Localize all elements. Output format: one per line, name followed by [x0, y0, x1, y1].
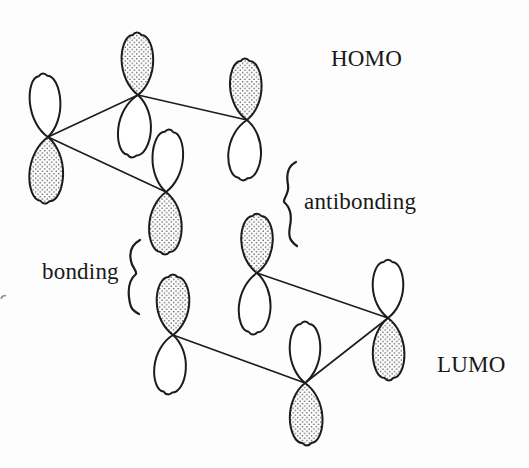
shaded-lobe-icon: [157, 275, 190, 335]
framework-line: [257, 273, 388, 318]
scan-artifact-mark: [1, 296, 6, 299]
p-orbital-lumo-c4: [373, 260, 405, 381]
framework-line: [173, 335, 305, 383]
p-orbital-lumo-c2: [154, 275, 189, 395]
p-orbital-lumo-c3: [290, 322, 323, 446]
antibonding-label: antibonding: [304, 190, 416, 213]
white-lobe-icon: [118, 95, 151, 157]
shaded-lobe-icon: [29, 137, 63, 204]
antibonding-brace: [284, 162, 297, 246]
p-orbital-homo-c3: [149, 130, 183, 255]
shaded-lobe-icon: [230, 59, 262, 120]
p-orbital-homo-c1: [29, 73, 63, 203]
white-lobe-icon: [228, 120, 261, 180]
shaded-lobe-icon: [149, 192, 182, 254]
orbital-diagram: [0, 0, 529, 468]
white-lobe-icon: [154, 335, 186, 394]
white-lobe-icon: [152, 130, 183, 192]
shaded-lobe-icon: [241, 214, 273, 273]
bonding-label: bonding: [42, 260, 119, 283]
framework-line: [138, 95, 247, 120]
p-orbital-lumo-c1: [239, 214, 273, 335]
lumo-label: LUMO: [437, 353, 506, 376]
frontier-orbital-figure: HOMO antibonding bonding LUMO: [0, 0, 529, 468]
homo-label: HOMO: [331, 47, 402, 70]
white-lobe-icon: [373, 260, 404, 318]
shaded-lobe-icon: [290, 383, 323, 445]
bonding-brace: [129, 240, 140, 314]
p-orbital-homo-c4: [228, 59, 261, 181]
shaded-lobe-icon: [122, 33, 154, 95]
white-lobe-icon: [239, 273, 271, 334]
p-orbital-homo-c2: [118, 33, 153, 158]
white-lobe-icon: [30, 73, 61, 137]
shaded-lobe-icon: [373, 318, 405, 380]
